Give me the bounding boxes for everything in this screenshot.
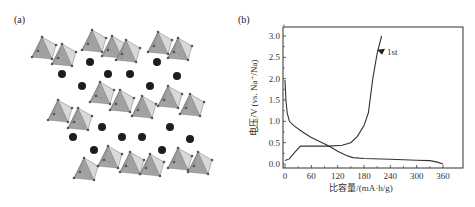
x-tick-label: 120 [331, 171, 345, 181]
y-tick-label: 3.0 [269, 31, 281, 41]
x-axis-label: 比容量/(mA·h/g) [329, 182, 393, 193]
y-tick-label: 2.0 [269, 74, 281, 84]
y-tick-label: 1.5 [269, 95, 281, 105]
voltage-capacity-chart: 0601201802403003600.00.51.01.52.02.53.0比… [235, 0, 475, 207]
y-axis-label: 电压/V (vs. Na⁺/Na) [248, 59, 259, 135]
x-tick-label: 60 [307, 171, 317, 181]
y-tick-label: 0.5 [269, 138, 281, 148]
crystal-structure-image [0, 0, 235, 207]
charge-curve [285, 36, 382, 161]
x-tick-label: 240 [384, 171, 398, 181]
crystal-structure-panel: (a) [0, 0, 235, 207]
arrow-icon [377, 49, 385, 55]
voltage-capacity-chart-panel: (b) 0601201802403003600.00.51.01.52.02.5… [235, 0, 475, 207]
x-tick-label: 360 [436, 171, 450, 181]
x-tick-label: 0 [283, 171, 288, 181]
y-tick-label: 0.0 [269, 159, 281, 169]
cycle-annotation: 1st [387, 47, 398, 57]
x-tick-label: 180 [357, 171, 371, 181]
plot-frame [283, 27, 463, 168]
y-tick-label: 1.0 [269, 116, 281, 126]
x-tick-label: 300 [410, 171, 424, 181]
discharge-curve [285, 80, 443, 164]
y-tick-label: 2.5 [269, 52, 281, 62]
